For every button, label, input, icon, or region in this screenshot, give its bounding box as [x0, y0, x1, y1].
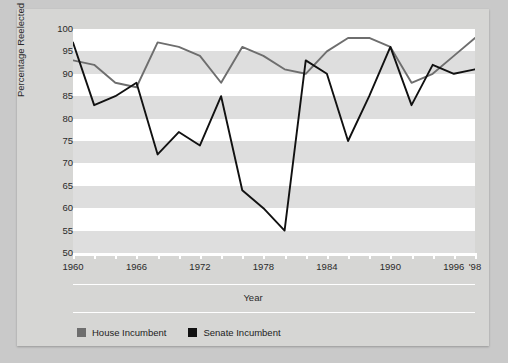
x-tick-label: 1972	[189, 262, 210, 272]
x-tick-mark	[179, 253, 181, 259]
x-tick-label: 1960	[62, 262, 83, 272]
x-tick-mark	[200, 253, 202, 259]
y-tick-label: 60	[33, 203, 73, 213]
plot-area: 10095908580757065605550	[73, 29, 475, 253]
y-tick-label: 70	[33, 159, 73, 169]
y-tick-label: 65	[33, 181, 73, 191]
x-tick-label: 1978	[253, 262, 274, 272]
x-tick-label: '98	[469, 262, 481, 272]
senate-incumbent-line	[73, 42, 475, 230]
x-axis-line	[73, 253, 475, 256]
x-tick-mark	[158, 253, 160, 259]
y-tick-label: 50	[33, 248, 73, 258]
senate-swatch	[188, 328, 197, 337]
y-axis-title: Percentage Reelected	[15, 3, 26, 97]
y-tick-label: 85	[33, 91, 73, 101]
y-tick-label: 95	[33, 47, 73, 57]
y-tick-label: 80	[33, 114, 73, 124]
x-tick-label: 1990	[380, 262, 401, 272]
x-tick-mark	[285, 253, 287, 259]
chart-legend: House IncumbentSenate Incumbent	[77, 327, 281, 338]
y-tick-label: 100	[33, 24, 73, 34]
x-tick-mark	[454, 253, 456, 259]
x-tick-mark	[94, 253, 96, 259]
x-tick-label: 1984	[316, 262, 337, 272]
y-tick-label: 75	[33, 136, 73, 146]
y-tick-label: 55	[33, 226, 73, 236]
x-tick-mark	[115, 253, 117, 259]
x-tick-mark	[390, 253, 392, 259]
x-tick-mark	[263, 253, 265, 259]
x-tick-mark	[348, 253, 350, 259]
x-tick-mark	[306, 253, 308, 259]
x-tick-mark	[369, 253, 371, 259]
x-tick-mark	[136, 253, 138, 259]
x-tick-label: 1966	[126, 262, 147, 272]
y-tick-label: 90	[33, 69, 73, 79]
house-incumbent-line	[73, 38, 475, 87]
x-axis-title: Year	[17, 292, 489, 303]
x-tick-mark	[412, 253, 414, 259]
x-tick-label: 1996	[443, 262, 464, 272]
x-tick-mark	[242, 253, 244, 259]
x-tick-mark	[475, 253, 477, 259]
legend-item: Senate Incumbent	[188, 327, 280, 338]
legend-label: Senate Incumbent	[203, 327, 280, 338]
x-tick-mark	[433, 253, 435, 259]
divider-top	[73, 284, 475, 285]
legend-item: House Incumbent	[77, 327, 166, 338]
line-chart-svg	[73, 29, 475, 253]
divider-bottom	[73, 312, 475, 313]
x-tick-mark	[221, 253, 223, 259]
house-swatch	[77, 328, 86, 337]
legend-label: House Incumbent	[92, 327, 166, 338]
x-tick-mark	[73, 253, 75, 259]
chart-figure: 10095908580757065605550 Percentage Reele…	[17, 9, 489, 346]
x-tick-mark	[327, 253, 329, 259]
